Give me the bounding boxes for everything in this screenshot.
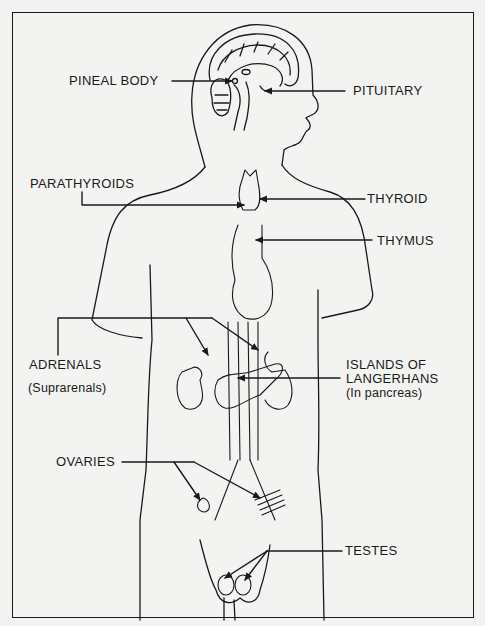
adrenals-leader-right: [212, 318, 258, 350]
ovaries-leader-right: [194, 462, 260, 498]
ovaries-leader-left: [174, 462, 200, 500]
testes-leader-left: [225, 551, 267, 578]
leader-lines: [58, 81, 372, 580]
label-thyroid: THYROID: [367, 192, 428, 206]
label-pituitary: PITUITARY: [353, 84, 422, 98]
label-adrenals-sub: (Suprarenals): [28, 381, 106, 395]
organs-illustration: [177, 170, 292, 595]
label-pineal-body: PINEAL BODY: [69, 74, 159, 88]
brain-illustration: [209, 34, 298, 130]
label-islands-sub: (In pancreas): [346, 386, 422, 400]
head-outline: [192, 25, 318, 167]
label-thymus: THYMUS: [377, 234, 434, 248]
parathyroids-leader: [82, 192, 244, 205]
label-islands-line2: LANGERHANS: [346, 372, 439, 386]
adrenals-leader-left: [186, 318, 208, 355]
label-parathyroids: PARATHYROIDS: [30, 177, 134, 191]
label-islands-line1: ISLANDS OF: [346, 358, 426, 372]
torso-outline: [92, 165, 373, 620]
label-testes: TESTES: [345, 544, 397, 558]
label-adrenals: ADRENALS: [29, 358, 101, 372]
label-ovaries: OVARIES: [56, 455, 115, 469]
